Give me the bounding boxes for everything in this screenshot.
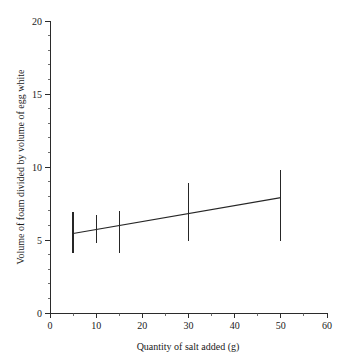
x-tick-label: 50 bbox=[276, 320, 286, 331]
x-tick-label: 0 bbox=[48, 320, 53, 331]
x-tick-label: 20 bbox=[137, 320, 147, 331]
x-tick-label: 60 bbox=[322, 320, 332, 331]
x-tick-label: 10 bbox=[91, 320, 101, 331]
y-axis-title: Volume of foam divided by volume of egg … bbox=[15, 69, 26, 264]
y-tick-label: 0 bbox=[37, 308, 42, 319]
scatter-plot-with-error-bars: 05101520 0102030405060 Quantity of salt … bbox=[0, 0, 354, 363]
y-tick-label: 5 bbox=[37, 235, 42, 246]
chart-figure: 05101520 0102030405060 Quantity of salt … bbox=[0, 0, 354, 363]
x-axis-title: Quantity of salt added (g) bbox=[137, 341, 240, 353]
y-tick-label: 20 bbox=[32, 16, 42, 27]
x-tick-label: 30 bbox=[184, 320, 194, 331]
plot-background bbox=[0, 0, 354, 363]
x-tick-label: 40 bbox=[230, 320, 240, 331]
y-tick-label: 10 bbox=[32, 162, 42, 173]
y-tick-label: 15 bbox=[32, 89, 42, 100]
